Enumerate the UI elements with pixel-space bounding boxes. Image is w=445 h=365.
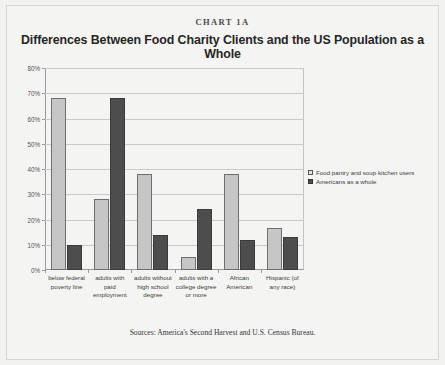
x-axis-category-label: African American [218, 274, 261, 300]
x-axis-category-label: adults without high school degree [131, 274, 174, 300]
bar [94, 199, 109, 270]
bar [240, 240, 255, 270]
x-axis-category-label: adults with paid employment [88, 274, 131, 300]
y-axis-tick-label: 40% [27, 166, 40, 173]
x-axis-category-label: adults with a college degree or more [175, 274, 218, 300]
x-axis-tick-mark [261, 270, 262, 273]
y-axis-tick-label: 80% [27, 65, 40, 72]
legend-item: Food pantry and soup kitchen users [308, 168, 414, 177]
legend-item-label: Americans as a whole [316, 177, 377, 186]
y-axis-tick-label: 70% [27, 90, 40, 97]
y-axis-tick-label: 20% [27, 216, 40, 223]
x-axis-tick-mark [175, 270, 176, 273]
bar [137, 174, 152, 270]
x-axis-tick-mark [45, 270, 46, 273]
x-axis-tick-mark [218, 270, 219, 273]
bar-group [45, 68, 88, 270]
x-axis-tick-mark [131, 270, 132, 273]
plot-wrapper: 0%10%20%30%40%50%60%70%80% [45, 68, 304, 270]
bar-group [88, 68, 131, 270]
bar [283, 237, 298, 270]
legend-item: Americans as a whole [308, 177, 414, 186]
legend-swatch-icon [308, 179, 313, 184]
bar [110, 98, 125, 270]
legend-swatch-icon [308, 170, 313, 175]
y-axis-tick-label: 60% [27, 115, 40, 122]
bar-group [131, 68, 174, 270]
chart-number-label: CHART 1A [7, 17, 438, 27]
source-note: Sources: America's Second Harvest and U.… [7, 328, 438, 337]
y-axis-tick-label: 30% [27, 191, 40, 198]
bar [224, 174, 239, 270]
x-axis-category-label: below federal poverty line [45, 274, 88, 300]
legend-item-label: Food pantry and soup kitchen users [316, 168, 414, 177]
y-axis-tick-label: 10% [27, 241, 40, 248]
bar-group [175, 68, 218, 270]
chart-legend: Food pantry and soup kitchen usersAmeric… [308, 168, 414, 186]
x-axis-category-label: Hispanic (of any race) [261, 274, 304, 300]
x-axis-tick-mark [88, 270, 89, 273]
y-axis-tick-label: 50% [27, 140, 40, 147]
chart-page-frame: CHART 1A Differences Between Food Charit… [6, 5, 439, 360]
bar-series-layer [45, 68, 304, 270]
bar-group [261, 68, 304, 270]
bar [181, 257, 196, 270]
y-axis-tick-label: 0% [31, 267, 40, 274]
bar [197, 209, 212, 270]
bar [51, 98, 66, 270]
bar-group [218, 68, 261, 270]
x-axis-labels: below federal poverty lineadults with pa… [45, 274, 304, 300]
bar [267, 228, 282, 270]
bar [67, 245, 82, 270]
chart-title: Differences Between Food Charity Clients… [7, 33, 438, 61]
bar [153, 235, 168, 270]
